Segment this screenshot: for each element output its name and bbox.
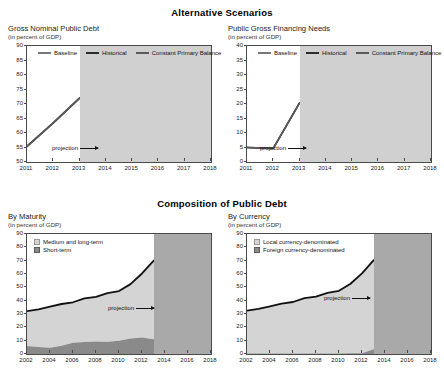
y-tick-mark (244, 313, 247, 314)
legend-label-short-term: Short-term (43, 246, 71, 254)
y-tick-label: 80 (227, 243, 243, 249)
projection-annotation-4: projection (324, 295, 370, 301)
y-tick-mark (24, 132, 27, 133)
y-tick-label: 80 (7, 71, 23, 77)
section-title-composition: Composition of Public Debt (0, 198, 444, 209)
x-tick-mark (72, 350, 73, 353)
y-tick-mark (244, 246, 247, 247)
x-tick-mark (430, 350, 431, 353)
x-tick-label: 2012 (350, 357, 372, 363)
y-tick-label: 15 (227, 115, 243, 121)
x-tick-label: 2004 (258, 357, 280, 363)
panel-by-currency: By Currency (in percent of GDP) 01020304… (228, 212, 436, 379)
x-tick-label: 2008 (304, 357, 326, 363)
x-tick-mark (292, 350, 293, 353)
legend-line-cpb-icon (136, 52, 149, 54)
legend-currency: Local currency-denominated Foreign curre… (254, 238, 345, 254)
y-tick-label: 30 (7, 310, 23, 316)
y-tick-mark (244, 286, 247, 287)
projection-shade-4 (374, 234, 432, 354)
x-tick-label: 2014 (94, 165, 116, 171)
projection-label-2: projection (260, 145, 286, 151)
legend-items-1: Baseline Historical Constant Primary Bal… (38, 49, 221, 57)
x-tick-mark (246, 350, 247, 353)
x-tick-mark (377, 158, 378, 161)
panel-subtitle-gross-nominal-public-debt: (in percent of GDP) (8, 33, 216, 41)
plot-area-by-maturity: 0102030405060708090 20022004200620082010… (8, 229, 216, 379)
x-tick-mark (49, 350, 50, 353)
y-tick-label: 85 (7, 57, 23, 63)
x-tick-label: 2018 (419, 357, 441, 363)
y-tick-label: 10 (7, 337, 23, 343)
legend-line-historical-icon (86, 52, 99, 54)
projection-arrow-icon (80, 148, 98, 149)
x-tick-mark (131, 158, 132, 161)
projection-label-3: projection (108, 305, 134, 311)
y-tick-mark (24, 286, 27, 287)
x-tick-mark (164, 350, 165, 353)
legend-line-historical-icon (306, 52, 319, 54)
projection-shade-2 (300, 46, 431, 162)
x-tick-label: 2014 (153, 357, 175, 363)
y-tick-label: 55 (7, 144, 23, 150)
x-tick-label: 2014 (314, 165, 336, 171)
y-tick-mark (24, 161, 27, 162)
x-tick-label: 2013 (68, 165, 90, 171)
y-tick-mark (24, 103, 27, 104)
y-tick-label: 25 (227, 86, 243, 92)
x-tick-mark (246, 158, 247, 161)
legend-label-historical: Historical (102, 49, 127, 57)
x-tick-label: 2016 (176, 357, 198, 363)
y-tick-label: 50 (7, 158, 23, 164)
y-tick-label: 0 (7, 350, 23, 356)
panel-by-maturity: By Maturity (in percent of GDP) 01020304… (8, 212, 216, 379)
panel-subtitle-by-currency: (in percent of GDP) (228, 221, 436, 229)
y-tick-mark (244, 74, 247, 75)
legend-label-cpb: Constant Primary Balance (372, 49, 442, 57)
y-tick-mark (244, 60, 247, 61)
x-tick-label: 2015 (120, 165, 142, 171)
y-tick-label: 70 (7, 257, 23, 263)
x-tick-label: 2014 (373, 357, 395, 363)
y-tick-mark (244, 260, 247, 261)
x-tick-label: 2017 (393, 165, 415, 171)
x-tick-mark (157, 158, 158, 161)
y-tick-mark (24, 353, 27, 354)
y-tick-mark (244, 161, 247, 162)
x-tick-mark (210, 350, 211, 353)
legend-scenarios-1: Baseline Historical Constant Primary Bal… (38, 49, 221, 57)
x-tick-mark (52, 158, 53, 161)
legend-line-cpb-icon (356, 52, 369, 54)
x-tick-mark (361, 350, 362, 353)
y-tick-mark (244, 132, 247, 133)
panel-public-gross-financing-needs: Public Gross Financing Needs (in percent… (228, 24, 436, 181)
y-tick-label: 80 (7, 243, 23, 249)
y-tick-mark (244, 147, 247, 148)
x-tick-mark (26, 158, 27, 161)
y-tick-label: 30 (227, 310, 243, 316)
legend-label-foreign-currency: Foreign currency-denominated (263, 246, 345, 254)
x-tick-label: 2002 (15, 357, 37, 363)
projection-annotation-2: projection (260, 145, 306, 151)
x-tick-mark (269, 350, 270, 353)
y-tick-label: 90 (7, 230, 23, 236)
y-tick-mark (24, 300, 27, 301)
y-tick-label: 30 (227, 71, 243, 77)
legend-label-cpb: Constant Primary Balance (152, 49, 222, 57)
y-tick-label: 10 (227, 129, 243, 135)
legend-item-short-term: Short-term (34, 246, 103, 254)
x-tick-label: 2010 (107, 357, 129, 363)
legend-scenarios-2: Baseline Historical Constant Primary Bal… (258, 49, 441, 57)
y-tick-label: 60 (7, 129, 23, 135)
y-tick-label: 50 (227, 283, 243, 289)
legend-item-medium-long-term: Medium and long-term (34, 238, 103, 246)
x-tick-mark (430, 158, 431, 161)
legend-swatch-medium-long-term-icon (34, 239, 40, 245)
plot-area-public-gross-financing-needs: 0510152025303540 20112012201320142015201… (228, 41, 436, 181)
x-tick-label: 2016 (146, 165, 168, 171)
x-tick-label: 2015 (340, 165, 362, 171)
figure-root: Alternative Scenarios Composition of Pub… (0, 0, 444, 385)
x-tick-label: 2011 (15, 165, 37, 171)
y-tick-label: 75 (7, 86, 23, 92)
legend-maturity: Medium and long-term Short-term (34, 238, 103, 254)
